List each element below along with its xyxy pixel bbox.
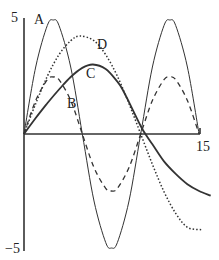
curve-d xyxy=(24,36,201,230)
y-min-label: −5 xyxy=(5,241,20,256)
curve-b-label: B xyxy=(67,96,76,111)
curve-a-label: A xyxy=(34,12,45,27)
y-max-label: 5 xyxy=(11,10,18,25)
chart: 5 −5 15 A B C D xyxy=(0,0,219,260)
x-max-label: 15 xyxy=(196,139,210,154)
curve-d-label: D xyxy=(97,37,107,52)
curve-c-label: C xyxy=(86,66,95,81)
curve-c xyxy=(24,64,211,195)
